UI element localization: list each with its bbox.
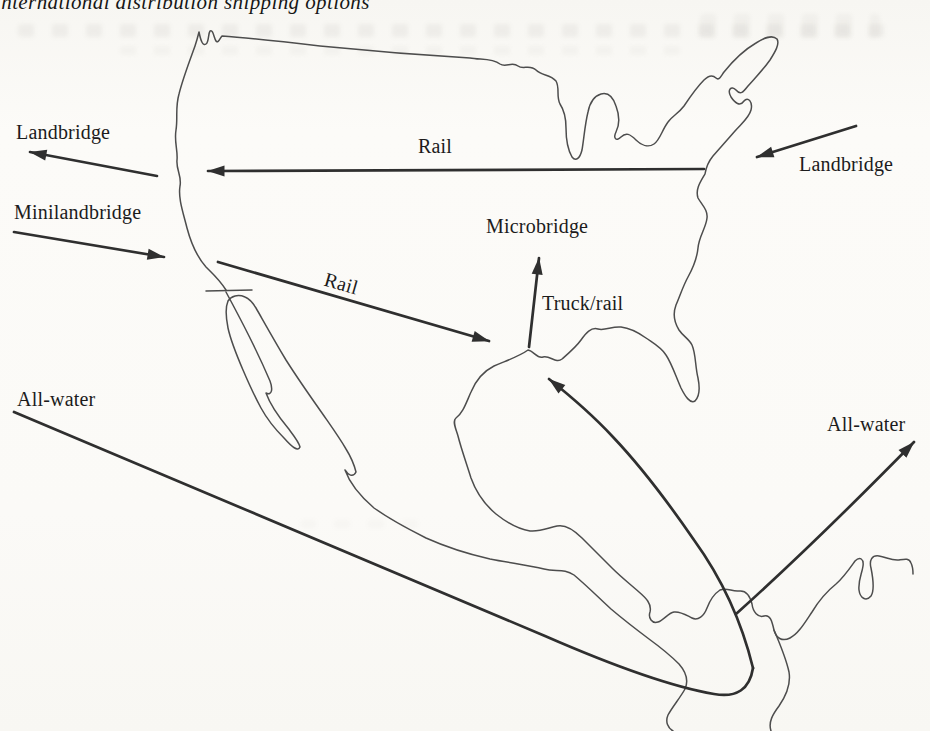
shipping-route-arrows [14, 126, 914, 695]
shipping-options-map-figure [0, 0, 930, 731]
label-landbridge-west: Landbridge [16, 121, 110, 143]
label-landbridge-east: Landbridge [799, 153, 893, 175]
figure-caption: international distribution shipping opti… [0, 0, 370, 15]
border-segment-path [206, 290, 252, 291]
label-all-water-east: All-water [827, 413, 905, 435]
rail-southern-arrow [218, 262, 489, 341]
label-minilandbridge: Minilandbridge [14, 201, 141, 223]
scanned-textbook-figure: { "figure": { "caption": "international … [0, 0, 930, 731]
all-water-gulf-inbound-arrow [549, 379, 753, 668]
label-all-water-west: All-water [17, 388, 95, 410]
label-truck-rail: Truck/rail [542, 292, 623, 314]
central-america-caribbean-path [770, 630, 789, 731]
us-mexico-gulf-coast-path [175, 31, 913, 640]
all-water-east-arrow [736, 442, 914, 614]
minilandbridge-arrow [14, 232, 164, 257]
microbridge-truck-rail-arrow [529, 258, 539, 347]
rail-transcontinental-arrow [208, 169, 704, 171]
label-rail-main: Rail [418, 135, 452, 157]
all-water-route-swoosh [14, 412, 753, 695]
landbridge-west-arrow [30, 152, 157, 176]
north-america-coastline [175, 31, 913, 731]
label-microbridge: Microbridge [486, 215, 588, 237]
